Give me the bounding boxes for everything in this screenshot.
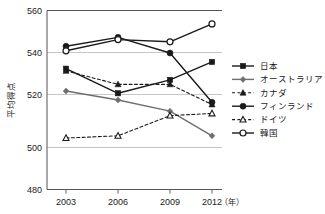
data-point [63,48,69,54]
gridlines [47,53,222,148]
data-point [209,133,215,139]
y-tick-480: 480 [27,185,42,195]
series-line [66,24,212,51]
legend-item-label: 日本 [260,61,278,71]
plot-frame [47,11,222,190]
line-chart: 560 540 520 500 480 平均得点 [0,0,325,214]
y-tick-560: 560 [27,6,42,16]
series-layer [63,21,215,141]
x-tick-2012: 2012 [202,197,222,207]
x-tick-2006: 2006 [108,197,128,207]
data-point [209,59,214,64]
y-tick-540: 540 [27,48,42,58]
legend-item-2[interactable]: オーストラリア [232,74,323,84]
legend-item-label: オーストラリア [260,74,323,84]
series-5 [63,110,215,140]
legend-item-label: 韓国 [260,128,278,138]
series-line [66,37,212,102]
legend-item-label: ドイツ [260,114,287,124]
legend-swatch-marker [240,76,246,82]
data-point [115,37,121,43]
series-6 [63,21,215,54]
legend-item-label: カナダ [260,88,287,98]
y-axis-title-text: 平均得点 [6,82,16,118]
data-point [167,112,173,118]
legend-swatch-marker [240,63,245,68]
series-2 [63,88,215,139]
legend-item-5[interactable]: ドイツ [232,114,287,124]
y-axis-title: 平均得点 [6,82,16,118]
data-point [115,91,120,96]
chart-legend: 日本オーストラリアカナダフィンランドドイツ韓国 [232,61,323,138]
y-tick-520: 520 [27,90,42,100]
data-point [167,39,173,45]
x-axis-ticks [66,190,212,194]
data-point [63,135,69,141]
legend-item-label: フィンランド [260,101,314,111]
data-point [209,110,215,116]
legend-item-3[interactable]: カナダ [232,88,287,98]
series-line [66,91,212,136]
legend-swatch-marker [240,116,246,122]
x-axis-unit-label: （年） [220,197,244,207]
series-line [66,113,212,138]
chart-canvas: 560 540 520 500 480 平均得点 [0,0,325,214]
data-point [167,50,173,56]
y-tick-500: 500 [27,143,42,153]
data-point [209,21,215,27]
data-point [115,133,121,139]
data-point [63,88,69,94]
data-point [115,97,121,103]
legend-item-1[interactable]: 日本 [232,61,278,71]
legend-item-6[interactable]: 韓国 [232,128,278,138]
data-point [209,99,215,105]
legend-swatch-marker [240,130,246,136]
x-axis-tick-labels: 2003 2006 2009 2012 （年） [56,197,244,207]
legend-item-4[interactable]: フィンランド [232,101,314,111]
x-tick-2009: 2009 [160,197,180,207]
y-axis-tick-labels: 560 540 520 500 480 [27,6,42,195]
legend-swatch-marker [240,103,246,109]
x-tick-2003: 2003 [56,197,76,207]
